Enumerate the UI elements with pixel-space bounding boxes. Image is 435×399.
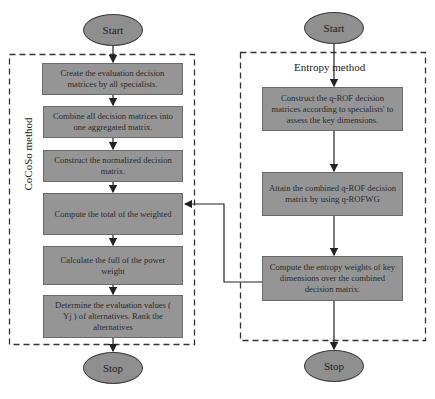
step-evaluation-values: Determine the evaluation values ( Yj ) o… — [43, 295, 183, 338]
step-power-weight: Calculate the full of the power weight — [43, 246, 183, 285]
stop-label: Stop — [324, 360, 344, 372]
entropy-method-label: Entropy method — [294, 61, 365, 73]
step-compute-weighted-total: Compute the total of the weighted — [43, 193, 183, 235]
step-construct-qrof-matrices: Construct the q-ROF decision matrices ac… — [262, 87, 403, 131]
stop-node-entropy: Stop — [304, 350, 364, 382]
start-node-entropy: Start — [304, 12, 364, 44]
cocoso-method-label: CoCoSo method — [22, 114, 34, 194]
step-entropy-weights: Compute the entropy weights of key dimen… — [262, 256, 403, 301]
start-label: Start — [324, 22, 345, 34]
step-create-evaluation-matrices: Create the evaluation decision matrices … — [42, 63, 183, 95]
stop-label: Stop — [103, 362, 123, 374]
step-combined-qrof-matrix: Attain the combined q-ROF decision matri… — [262, 172, 403, 216]
step-normalized-matrix: Construct the normalized decision matrix… — [43, 150, 183, 182]
stop-node-cocoso: Stop — [83, 352, 143, 384]
start-label: Start — [103, 24, 124, 36]
step-combine-matrices: Combine all decision matrices into one a… — [43, 106, 183, 138]
start-node-cocoso: Start — [83, 14, 143, 46]
